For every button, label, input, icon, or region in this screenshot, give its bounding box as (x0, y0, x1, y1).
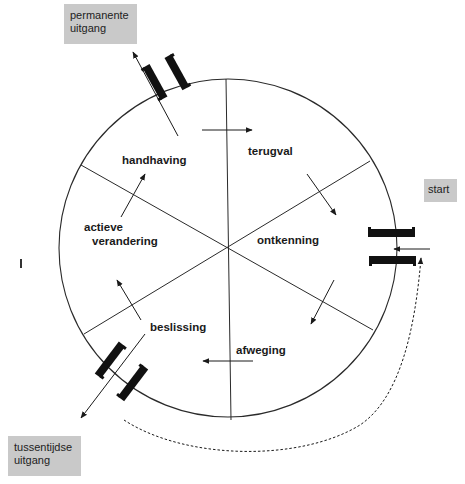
permanente-uitgang-box: permanente uitgang (64, 4, 137, 44)
arrow-actieve-handhaving (121, 174, 145, 217)
actieve-line: actieve (84, 220, 158, 234)
cycle-diagram (0, 0, 465, 484)
arrow-terugval-ontkenning (307, 174, 336, 215)
stage-label-terugval: terugval (248, 144, 293, 158)
permanente-uitgang-line1: permanente (70, 9, 131, 22)
door-icon-top (141, 53, 191, 101)
arrow-beslissing-actieve (117, 280, 141, 320)
stage-label-handhaving: handhaving (122, 153, 187, 167)
tussentijdse-uitgang-line2: uitgang (14, 454, 75, 467)
door-icon-start (368, 227, 416, 266)
stage-label-afweging: afweging (236, 343, 286, 357)
verandering-line: verandering (92, 234, 158, 248)
stray-mark (20, 259, 22, 268)
start-label: start (428, 183, 449, 195)
tussentijdse-uitgang-line1: tussentijdse (14, 441, 75, 454)
stage-label-actieve-verandering: actieve verandering (84, 220, 158, 248)
stage-label-beslissing: beslissing (150, 320, 206, 334)
start-box: start (424, 179, 457, 202)
tussentijdse-uitgang-box: tussentijdse uitgang (8, 436, 81, 476)
stage-label-ontkenning: ontkenning (257, 233, 319, 247)
permanente-uitgang-line2: uitgang (70, 22, 131, 35)
arrow-ontkenning-afweging (311, 280, 334, 324)
